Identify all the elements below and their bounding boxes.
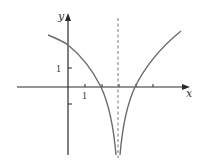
- x-axis-label: x: [186, 87, 193, 100]
- curve-right: [120, 31, 181, 155]
- y-tick-label-1: 1: [56, 63, 61, 74]
- y-axis-arrow-icon: [65, 13, 71, 21]
- function-graph: x y 1 1: [0, 0, 199, 166]
- x-tick-label-1: 1: [82, 90, 87, 101]
- y-axis-label: y: [57, 10, 65, 23]
